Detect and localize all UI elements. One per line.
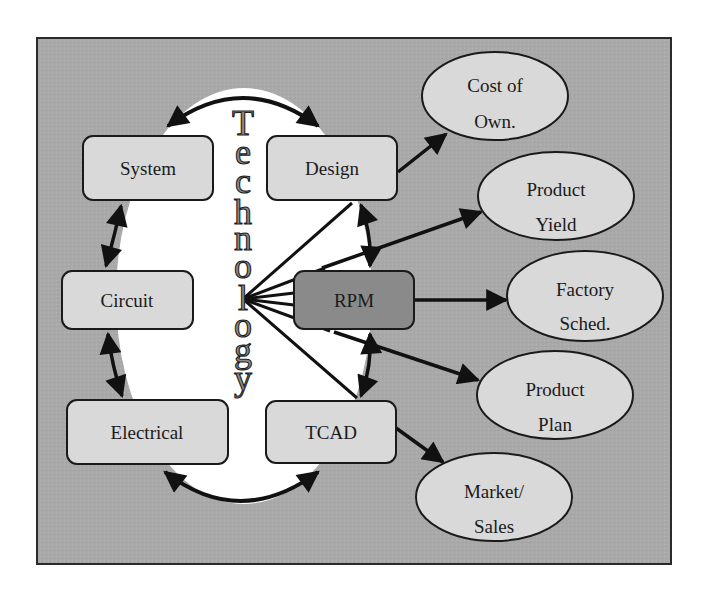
oval-factory-line2: Sched. [559,313,610,334]
box-electrical-label: Electrical [111,422,184,443]
oval-plan-line2: Plan [538,414,572,435]
box-tcad[interactable]: TCAD [266,401,396,463]
box-system-label: System [120,158,176,179]
oval-product-yield[interactable]: Product Yield [478,152,634,240]
box-tcad-label: TCAD [305,422,357,443]
technology-vertical-title: T e c h n o l o g y [232,103,254,398]
oval-factory-line1: Factory [556,279,615,300]
box-electrical[interactable]: Electrical [67,400,228,464]
oval-plan-line1: Product [525,379,585,400]
oval-market-sales[interactable]: Market/ Sales [416,453,572,541]
box-design-label: Design [305,158,359,179]
box-circuit[interactable]: Circuit [62,271,193,329]
oval-factory-sched[interactable]: Factory Sched. [507,251,663,341]
oval-cost-line2: Own. [474,111,516,132]
oval-cost-of-own[interactable]: Cost of Own. [422,52,568,140]
box-circuit-label: Circuit [101,290,154,311]
oval-product-plan[interactable]: Product Plan [477,351,633,439]
box-design[interactable]: Design [267,136,397,200]
box-rpm-label: RPM [334,290,374,311]
box-system[interactable]: System [83,136,213,200]
box-rpm[interactable]: RPM [294,271,414,329]
oval-cost-line1: Cost of [467,75,523,96]
tech-letter-9: y [234,358,252,398]
oval-market-line2: Sales [474,516,514,537]
oval-yield-line1: Product [526,179,586,200]
technology-rpm-diagram: System Design Circuit RPM Electrical TCA… [0,0,706,592]
oval-market-line1: Market/ [464,481,525,502]
oval-yield-line2: Yield [535,214,577,235]
